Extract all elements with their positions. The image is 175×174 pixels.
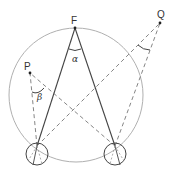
fixation-point-f [74,27,77,30]
binocular-geometry-diagram: F P Q α β [0,0,175,174]
label-p: P [24,61,31,72]
point-p [29,72,32,75]
q-angle-arc [138,45,150,50]
right-eye-to-f-line [75,28,115,146]
label-alpha: α [72,54,78,64]
alpha-angle-arc [69,49,81,51]
left-eye-to-f-line [37,28,75,146]
left-eye-to-q-line [37,23,160,146]
point-q [159,22,162,25]
label-beta: β [36,92,42,102]
label-q: Q [157,9,165,20]
vieth-muller-circle [9,28,143,162]
left-eye-to-p-line [30,73,37,146]
label-f: F [71,15,77,26]
right-eye-to-q-line [115,23,160,146]
